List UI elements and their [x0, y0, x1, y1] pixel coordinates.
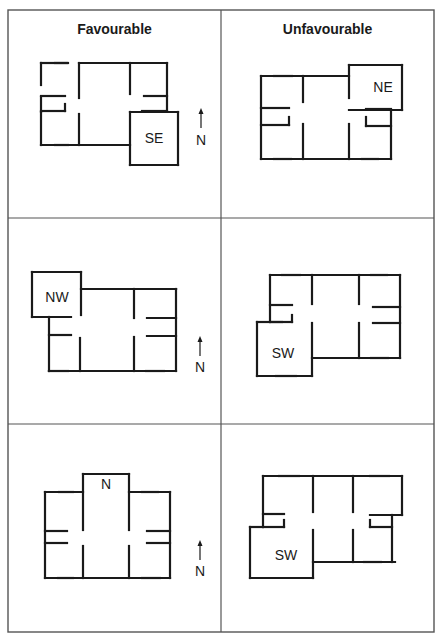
extension-label: NE	[373, 79, 392, 95]
extension-label: SW	[275, 547, 298, 563]
extension-label: SE	[145, 130, 164, 146]
north-arrow-icon: N	[195, 336, 205, 375]
floor-plan-favourable-n: NN	[45, 474, 205, 579]
north-label: N	[195, 563, 205, 579]
vastu-orientation-figure: Favourable Unfavourable SENNENWNSWNNSW	[0, 0, 441, 642]
north-arrow-icon: N	[196, 108, 206, 148]
floor-plan-favourable-se: SEN	[41, 63, 206, 165]
extension-label: NW	[45, 289, 69, 305]
floor-plan-unfavourable-ne: NE	[261, 65, 402, 159]
extension-label: SW	[272, 345, 295, 361]
floor-plan-panels: SENNENWNSWNNSW	[32, 63, 402, 579]
floor-plan-unfavourable-sw-2: SW	[250, 476, 402, 578]
extension-label: N	[101, 476, 111, 492]
floor-plan-unfavourable-sw: SW	[257, 275, 400, 376]
north-label: N	[195, 359, 205, 375]
panel-grid-lines	[8, 10, 434, 632]
floor-plan-favourable-nw: NWN	[32, 272, 205, 375]
north-arrow-icon: N	[195, 540, 205, 579]
north-label: N	[196, 132, 206, 148]
floor-plan-grid: SENNENWNSWNNSW	[0, 0, 441, 642]
